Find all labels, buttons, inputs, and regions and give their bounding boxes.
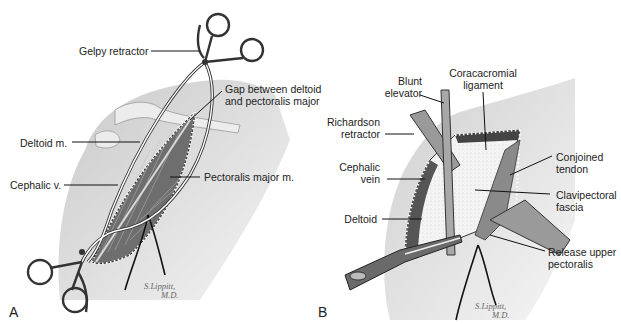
label-deltoid: Deltoid [310, 213, 377, 225]
label-clavi-line1: Clavipectoral [556, 189, 617, 201]
label-richardson-line2: retractor [310, 128, 380, 140]
label-gap-line2: and pectoralis major [225, 95, 320, 107]
label-blunt-line1: Blunt [372, 75, 422, 87]
signature-a-line2: M.D. [161, 291, 178, 300]
label-coraco-line2: ligament [440, 79, 526, 91]
label-coraco-line1: Coracacromial [440, 67, 526, 79]
label-cephalic-line2: vein [310, 173, 380, 185]
panel-a-illustration [0, 0, 310, 324]
panel-letter-b: B [318, 304, 327, 320]
label-clavi-line2: fascia [556, 201, 583, 213]
label-conjoined-line2: tendon [556, 163, 588, 175]
label-richardson-line1: Richardson [310, 116, 380, 128]
panel-a: Gelpy retractor Gap between deltoid and … [0, 0, 310, 324]
label-release-line2: pectoralis [548, 258, 593, 270]
label-pectoralis-major: Pectoralis major m. [204, 171, 294, 183]
label-conjoined-line1: Conjoined [556, 151, 603, 163]
label-blunt-line2: elevator [362, 87, 422, 99]
panel-letter-a: A [9, 304, 18, 320]
label-gap-line1: Gap between deltoid [225, 83, 321, 95]
label-release-line1: Release upper [548, 246, 616, 258]
signature-b-line2: M.D. [492, 311, 509, 320]
label-deltoid: Deltoid m. [20, 137, 67, 149]
label-gelpy-retractor: Gelpy retractor [79, 45, 148, 57]
panel-b: Blunt elevator Coracacromial ligament Ri… [310, 0, 621, 324]
label-cephalic-line1: Cephalic [310, 161, 380, 173]
label-cephalic-vein: Cephalic v. [10, 179, 61, 191]
